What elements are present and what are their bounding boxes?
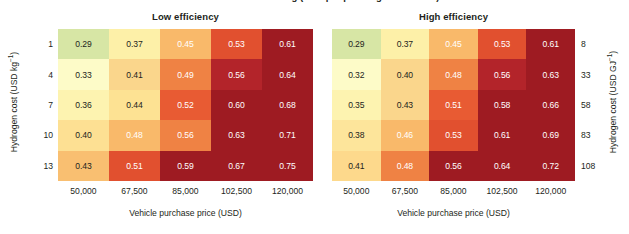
heatmap-cell: 0.69 [526,120,575,150]
heatmap-cell: 0.38 [332,120,381,150]
x-tick-label: 102,500 [478,186,527,196]
heatmap-cell: 0.43 [58,151,109,181]
panel-title-low-efficiency: Low efficiency [58,11,313,22]
heatmap-cell: 0.48 [429,59,478,89]
heatmap-cell: 0.68 [262,90,313,120]
heatmap-cell: 0.64 [478,151,527,181]
heatmap-grid-low-efficiency: 0.290.370.450.530.610.330.410.490.560.64… [58,29,313,181]
heatmap-cell: 0.41 [332,151,381,181]
x-tick-label: 85,000 [160,186,211,196]
heatmap-cell: 0.56 [429,151,478,181]
heatmap-cell: 0.61 [526,29,575,59]
heatmap-figure: levelized cost of driving (USD per passe… [0,0,629,234]
heatmap-cell: 0.59 [160,151,211,181]
x-axis-ticks-right: 50,000 67,500 85,000 102,500 120,000 [332,186,575,196]
x-tick-label: 85,000 [429,186,478,196]
x-tick-label: 67,500 [381,186,430,196]
y-tick-label: 58 [575,90,605,120]
heatmap-cell: 0.67 [211,151,262,181]
heatmap-cell: 0.72 [526,151,575,181]
y-axis-label-left-exponent: −1 [7,55,14,62]
heatmap-cell: 0.53 [211,29,262,59]
heatmap-cell: 0.60 [211,90,262,120]
y-axis-label-left-paren: ) [9,52,19,55]
heatmap-cell: 0.53 [429,120,478,150]
x-tick-label: 120,000 [526,186,575,196]
y-tick-label: 33 [575,59,605,89]
heatmap-cell: 0.32 [332,59,381,89]
y-tick-label: 1 [26,29,58,59]
y-tick-label: 7 [26,90,58,120]
heatmap-cell: 0.37 [109,29,160,59]
heatmap-cell: 0.45 [429,29,478,59]
panel-low-efficiency: Low efficiency Hydrogen cost (USD kg−1) … [0,0,318,234]
heatmap-cell: 0.48 [381,151,430,181]
heatmap-cell: 0.58 [478,90,527,120]
heatmap-cell: 0.48 [109,120,160,150]
heatmap-cell: 0.33 [58,59,109,89]
heatmap-cell: 0.51 [109,151,160,181]
x-tick-label: 102,500 [211,186,262,196]
heatmap-cell: 0.35 [332,90,381,120]
panel-high-efficiency: High efficiency 0.290.370.450.530.610.32… [318,0,629,234]
y-tick-label: 83 [575,120,605,150]
heatmap-cell: 0.66 [526,90,575,120]
y-tick-label: 108 [575,151,605,181]
heatmap-cell: 0.44 [109,90,160,120]
heatmap-cell: 0.45 [160,29,211,59]
x-axis-label-left: Vehicle purchase price (USD) [58,208,313,218]
heatmap-cell: 0.61 [478,120,527,150]
x-tick-label: 50,000 [332,186,381,196]
panel-title-high-efficiency: High efficiency [332,11,575,22]
heatmap-cell: 0.56 [160,120,211,150]
y-tick-label: 10 [26,120,58,150]
heatmap-cell: 0.64 [262,59,313,89]
heatmap-cell: 0.56 [478,59,527,89]
y-axis-label-left-text: Hydrogen cost (USD kg [9,62,19,152]
heatmap-grid-high-efficiency: 0.290.370.450.530.610.320.400.480.560.63… [332,29,575,181]
heatmap-cell: 0.71 [262,120,313,150]
heatmap-cell: 0.40 [381,59,430,89]
heatmap-cell: 0.53 [478,29,527,59]
heatmap-cell: 0.37 [381,29,430,59]
heatmap-cell: 0.56 [211,59,262,89]
heatmap-cell: 0.29 [332,29,381,59]
y-axis-ticks-left: 1 4 7 10 13 [26,29,58,181]
heatmap-cell: 0.63 [211,120,262,150]
heatmap-cell: 0.61 [262,29,313,59]
heatmap-cell: 0.29 [58,29,109,59]
heatmap-cell: 0.41 [109,59,160,89]
y-tick-label: 4 [26,59,58,89]
heatmap-cell: 0.40 [58,120,109,150]
x-tick-label: 120,000 [262,186,313,196]
heatmap-cell: 0.63 [526,59,575,89]
y-tick-label: 13 [26,151,58,181]
x-tick-label: 67,500 [109,186,160,196]
y-axis-label-right: Hydrogen cost (USD GJ−1) [608,32,618,172]
y-axis-label-right-paren: ) [608,51,618,54]
heatmap-cell: 0.75 [262,151,313,181]
y-axis-label-left: Hydrogen cost (USD kg−1) [9,32,19,172]
heatmap-cell: 0.51 [429,90,478,120]
heatmap-cell: 0.46 [381,120,430,150]
x-tick-label: 50,000 [58,186,109,196]
heatmap-cell: 0.36 [58,90,109,120]
y-axis-label-right-exponent: −1 [606,54,613,61]
x-axis-label-right: Vehicle purchase price (USD) [332,208,575,218]
y-tick-label: 8 [575,29,605,59]
heatmap-cell: 0.49 [160,59,211,89]
heatmap-cell: 0.43 [381,90,430,120]
y-axis-ticks-right: 8 33 58 83 108 [575,29,605,181]
heatmap-cell: 0.52 [160,90,211,120]
x-axis-ticks-left: 50,000 67,500 85,000 102,500 120,000 [58,186,313,196]
y-axis-label-right-text: Hydrogen cost (USD GJ [608,61,618,153]
